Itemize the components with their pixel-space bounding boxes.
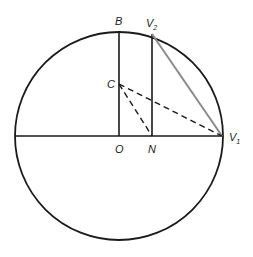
segment-CN-dashed (119, 84, 152, 136)
label-C: C (107, 78, 115, 90)
segment-CV1-dashed (119, 84, 222, 136)
label-N: N (148, 143, 156, 155)
segment-V2V1 (152, 34, 222, 136)
geometry-diagram: B V2 C O N V1 (0, 0, 253, 257)
label-O: O (115, 143, 124, 155)
label-V1: V1 (229, 131, 240, 145)
label-B: B (115, 15, 122, 27)
label-V2: V2 (146, 17, 157, 31)
